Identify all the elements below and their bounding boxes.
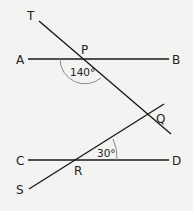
label-c: C bbox=[16, 154, 24, 168]
label-q: Q bbox=[156, 112, 165, 126]
label-s: S bbox=[16, 183, 24, 197]
label-d: D bbox=[172, 154, 181, 168]
label-r: R bbox=[74, 164, 82, 178]
line-tq bbox=[39, 21, 171, 134]
label-p: P bbox=[81, 43, 88, 57]
angle-label-p: 140° bbox=[70, 66, 95, 78]
geometry-diagram: T P A B Q C D R S 140° 30° bbox=[0, 0, 193, 211]
label-b: B bbox=[172, 53, 180, 67]
angle-label-r: 30° bbox=[97, 147, 116, 159]
label-t: T bbox=[26, 9, 35, 23]
label-a: A bbox=[16, 53, 25, 67]
diagram-svg: T P A B Q C D R S 140° 30° bbox=[0, 0, 193, 211]
